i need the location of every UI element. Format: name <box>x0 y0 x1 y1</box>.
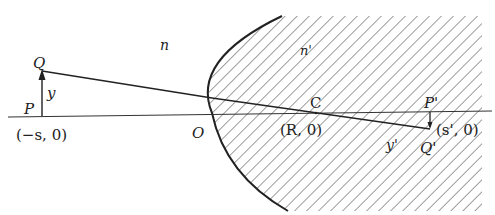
label-y-prime: y' <box>385 137 398 153</box>
label-P: P <box>23 100 35 118</box>
label-Q-prime: Q' <box>420 139 436 157</box>
label-image-coord: (s', 0) <box>436 121 479 139</box>
label-y: y <box>46 84 56 102</box>
label-medium-n-prime: n' <box>300 43 312 58</box>
label-center-coord: (R, 0) <box>280 121 322 139</box>
center-point <box>315 112 318 115</box>
refraction-diagram: n n' Q y P (−s, 0) O C (R, 0) P' (s', 0)… <box>0 0 495 215</box>
label-C: C <box>310 94 321 112</box>
label-medium-n: n <box>160 37 169 53</box>
label-P-prime: P' <box>423 94 438 112</box>
label-O: O <box>192 124 204 142</box>
label-object-coord: (−s, 0) <box>16 126 67 144</box>
label-Q: Q <box>33 54 45 72</box>
incident-ray <box>42 71 212 98</box>
